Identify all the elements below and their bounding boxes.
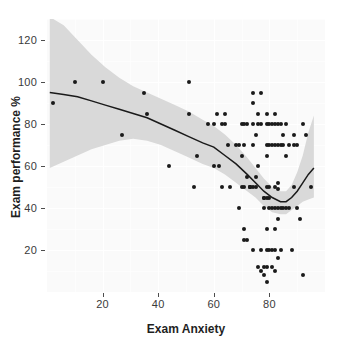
data-point	[187, 80, 191, 84]
data-point	[267, 185, 271, 189]
data-point	[120, 133, 124, 137]
y-tick-label-40: 40	[24, 202, 37, 214]
data-point	[51, 101, 55, 105]
data-point	[195, 154, 199, 158]
data-point	[242, 143, 246, 147]
data-point	[254, 185, 258, 189]
data-point	[251, 101, 255, 105]
data-point	[240, 154, 244, 158]
data-point	[217, 164, 221, 168]
data-point	[298, 217, 302, 221]
data-point	[259, 122, 263, 126]
x-tick-label-40: 40	[152, 298, 165, 310]
data-point	[292, 133, 296, 137]
scatter-plot-figure: 20406080100120 20406080 Exam performance…	[0, 0, 342, 350]
data-point	[145, 112, 149, 116]
x-axis-tick-labels: 20406080	[0, 298, 342, 316]
y-tick-mark-60	[41, 166, 45, 167]
data-point	[295, 206, 299, 210]
x-tick-mark-60	[214, 293, 215, 297]
data-point	[290, 248, 294, 252]
data-point	[265, 280, 269, 284]
data-point	[251, 91, 255, 95]
data-point	[237, 206, 241, 210]
data-point	[265, 265, 269, 269]
x-tick-mark-20	[103, 293, 104, 297]
data-point	[254, 175, 258, 179]
data-point	[242, 185, 246, 189]
data-point	[228, 185, 232, 189]
y-tick-mark-80	[41, 124, 45, 125]
y-tick-label-80: 80	[24, 118, 37, 130]
data-point	[226, 143, 230, 147]
y-tick-label-120: 120	[18, 34, 37, 46]
data-point	[254, 133, 258, 137]
data-point	[237, 143, 241, 147]
y-axis-title: Exam performance %	[9, 57, 23, 257]
data-point	[142, 91, 146, 95]
data-point	[251, 122, 255, 126]
data-point	[276, 187, 280, 191]
data-point	[192, 185, 196, 189]
data-point	[279, 122, 283, 126]
data-point	[223, 112, 227, 116]
data-point	[273, 248, 277, 252]
data-point	[309, 185, 313, 189]
data-point	[187, 112, 191, 116]
data-point	[251, 143, 255, 147]
y-tick-mark-20	[41, 250, 45, 251]
y-tick-mark-100	[41, 82, 45, 83]
data-point	[256, 164, 260, 168]
data-point	[276, 217, 280, 221]
data-point	[259, 91, 263, 95]
data-point	[279, 248, 283, 252]
y-tick-label-60: 60	[24, 160, 37, 172]
data-point	[295, 143, 299, 147]
x-tick-label-80: 80	[263, 298, 276, 310]
data-point	[273, 227, 277, 231]
data-point	[265, 227, 269, 231]
data-point	[223, 122, 227, 126]
data-point	[220, 185, 224, 189]
x-tick-mark-40	[158, 293, 159, 297]
y-tick-mark-120	[41, 40, 45, 41]
data-point	[73, 80, 77, 84]
data-point	[304, 133, 308, 137]
y-tick-label-20: 20	[24, 244, 37, 256]
data-point	[273, 269, 277, 273]
data-point	[262, 206, 266, 210]
data-point	[245, 122, 249, 126]
x-tick-label-60: 60	[207, 298, 220, 310]
data-point	[265, 154, 269, 158]
data-point	[284, 154, 288, 158]
data-point	[212, 122, 216, 126]
data-point	[287, 143, 291, 147]
x-tick-mark-80	[269, 293, 270, 297]
x-axis-title: Exam Anxiety	[47, 322, 325, 336]
data-point	[276, 181, 280, 185]
data-point	[281, 133, 285, 137]
x-tick-label-20: 20	[96, 298, 109, 310]
data-point	[245, 238, 249, 242]
data-point	[287, 206, 291, 210]
data-point	[215, 112, 219, 116]
data-point	[292, 185, 296, 189]
data-point	[251, 248, 255, 252]
data-point	[281, 143, 285, 147]
data-point	[167, 164, 171, 168]
plot-panel	[47, 19, 325, 292]
data-point	[301, 273, 305, 277]
data-point	[276, 256, 280, 260]
data-point	[262, 273, 266, 277]
data-point	[301, 122, 305, 126]
data-point	[267, 196, 271, 200]
data-point	[273, 112, 277, 116]
y-tick-mark-40	[41, 208, 45, 209]
data-point	[101, 80, 105, 84]
data-point	[212, 164, 216, 168]
data-point	[242, 227, 246, 231]
data-point	[256, 112, 260, 116]
data-point	[206, 122, 210, 126]
data-point	[245, 175, 249, 179]
data-point	[284, 122, 288, 126]
